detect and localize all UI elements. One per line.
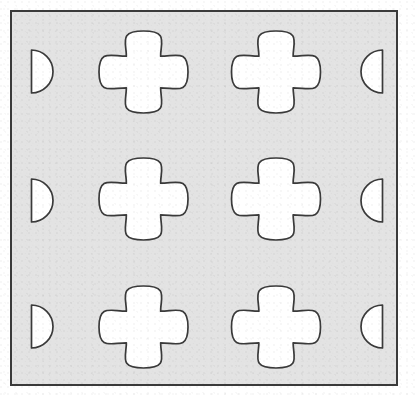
figure-canvas: [0, 0, 418, 396]
plate-body: [11, 11, 397, 385]
perforated-plate-drawing: [0, 0, 418, 396]
